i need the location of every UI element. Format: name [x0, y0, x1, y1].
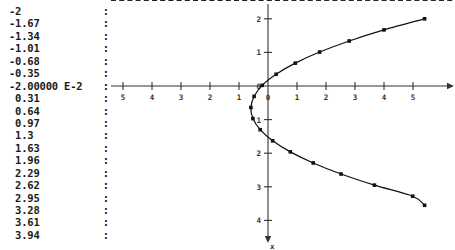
data-point-marker [411, 194, 415, 198]
x-tick-label: 5 [121, 93, 126, 102]
data-point-marker [347, 39, 351, 43]
data-point-marker [423, 17, 427, 21]
chart-canvas: 543210123452101234x [0, 0, 455, 250]
y-tick-label: 2 [256, 149, 261, 158]
y-tick-label: 4 [256, 216, 261, 225]
data-point-marker [382, 28, 386, 32]
data-point-marker [271, 139, 275, 143]
data-point-marker [311, 161, 315, 165]
x-tick-label: 1 [295, 93, 300, 102]
data-point-marker [258, 128, 262, 132]
data-point-marker [293, 61, 297, 65]
data-point-marker [373, 183, 377, 187]
y-tick-label: 1 [256, 48, 261, 57]
data-point-marker [339, 172, 343, 176]
data-point-marker [249, 106, 253, 110]
x-tick-label: 4 [150, 93, 155, 102]
data-point-marker [252, 95, 256, 99]
data-point-marker [423, 203, 427, 207]
data-point-marker [318, 50, 322, 54]
x-axis-arrow [447, 83, 454, 89]
y-tick-label: 2 [256, 15, 261, 24]
plot-screen: -2-1.67-1.34-1.01-0.68-0.35-2.00000 E-2 … [0, 0, 455, 250]
x-tick-label: 2 [324, 93, 329, 102]
x-tick-label: 4 [382, 93, 387, 102]
data-point-marker [251, 117, 255, 121]
data-point-marker [274, 72, 278, 76]
parabola-curve [251, 19, 425, 205]
x-tick-label: 3 [179, 93, 184, 102]
x-tick-label: 1 [237, 93, 242, 102]
data-point-marker [260, 84, 264, 88]
x-tick-label: 3 [353, 93, 358, 102]
y-tick-label: 3 [256, 183, 261, 192]
data-point-marker [289, 150, 293, 154]
x-axis-label: x [270, 242, 275, 250]
x-tick-label: 2 [208, 93, 213, 102]
x-tick-label: 5 [411, 93, 416, 102]
parabola-chart: 543210123452101234x [0, 0, 455, 250]
y-tick-label: 1 [256, 116, 261, 125]
x-tick-label: 0 [266, 93, 271, 102]
